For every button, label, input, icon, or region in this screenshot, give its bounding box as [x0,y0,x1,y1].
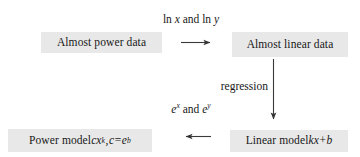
variable-b: b [327,135,333,147]
ln-operator-2: ln [202,13,214,25]
commutative-diagram: Almost power data Almost linear data Pow… [0,0,360,157]
variable-y: y [214,13,219,25]
node-almost-linear-data: Almost linear data [232,32,348,57]
node-label: Almost power data [57,37,146,49]
equals-sign: = [114,135,122,147]
regression-text: regression [221,80,268,92]
node-label: Almost linear data [247,39,334,51]
variable-x: x [96,135,101,147]
node-label-prefix: Power model [29,135,91,147]
exponent-y: y [207,101,210,110]
conjunction-and: and [180,13,202,25]
edge-label-regression: regression [206,81,268,93]
node-almost-power-data: Almost power data [41,32,162,53]
conjunction-and: and [180,103,202,115]
node-linear-model: Linear model kx + b [230,130,348,152]
ln-operator-1: ln [163,13,175,25]
edge-label-log-transform: ln x and ln y [146,14,236,26]
edge-label-exp-transform: ex and ey [152,104,230,116]
node-power-model: Power model cxk, c = eb [8,129,152,152]
node-label-prefix: Linear model [246,135,309,147]
plus-sign: + [319,135,327,147]
